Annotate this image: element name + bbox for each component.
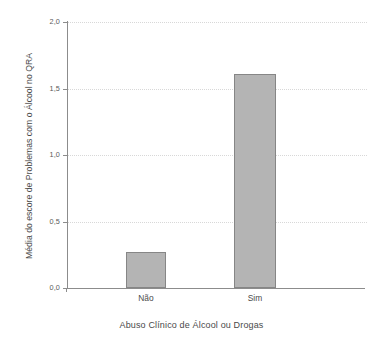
y-tick-mark-2-0 bbox=[63, 22, 68, 23]
y-axis-title-text: Média do escore de Problemas com o Álcoo… bbox=[24, 53, 34, 259]
bar-chart: Média do escore de Problemas com o Álcoo… bbox=[0, 0, 383, 337]
x-axis-line bbox=[66, 288, 365, 289]
y-tick-mark-1-5 bbox=[63, 89, 68, 90]
y-tick-mark-0-0 bbox=[63, 288, 68, 289]
y-axis-title: Média do escore de Problemas com o Álcoo… bbox=[22, 12, 36, 300]
y-tick-label-0-0: 0,0 bbox=[38, 283, 60, 292]
x-tick-label-sim: Sim bbox=[225, 293, 285, 303]
y-tick-label-1-0: 1,0 bbox=[38, 150, 60, 159]
bar-sim[interactable] bbox=[234, 74, 276, 288]
y-tick-mark-0-5 bbox=[63, 222, 68, 223]
y-tick-label-1-5: 1,5 bbox=[38, 84, 60, 93]
y-tick-label-0-5: 0,5 bbox=[38, 217, 60, 226]
gridline-1-5 bbox=[68, 89, 367, 90]
gridline-0-5 bbox=[68, 222, 367, 223]
y-tick-label-2-0: 2,0 bbox=[38, 17, 60, 26]
x-axis-title: Abuso Clínico de Álcool ou Drogas bbox=[0, 320, 383, 330]
gridline-2-0 bbox=[68, 22, 367, 23]
y-tick-mark-1-0 bbox=[63, 155, 68, 156]
x-tick-label-nao: Não bbox=[116, 293, 176, 303]
bar-nao[interactable] bbox=[126, 252, 166, 288]
gridline-1-0 bbox=[68, 155, 367, 156]
plot-area bbox=[68, 22, 367, 288]
